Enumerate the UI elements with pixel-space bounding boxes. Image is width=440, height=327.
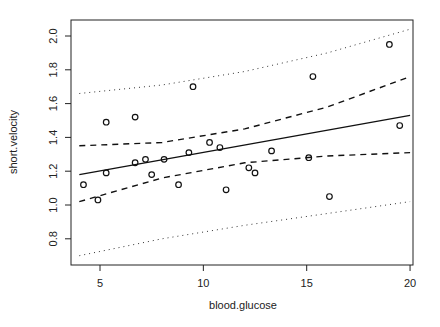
data-point — [95, 197, 101, 203]
y-tick-label: 1.2 — [47, 164, 59, 179]
prediction-lower-line — [79, 202, 410, 256]
data-point — [327, 194, 333, 200]
data-point — [252, 170, 258, 176]
plot-frame — [71, 20, 413, 265]
data-point — [143, 157, 149, 163]
scatter-plot: 5101520 0.81.01.21.41.61.82.0 blood.gluc… — [0, 0, 440, 327]
confidence-lower-line — [79, 153, 410, 202]
x-tick-label: 20 — [404, 277, 416, 289]
data-point — [103, 119, 109, 125]
y-axis: 0.81.01.21.41.61.82.0 — [47, 28, 71, 246]
data-points — [81, 42, 403, 203]
y-tick-label: 2.0 — [47, 28, 59, 43]
y-tick-label: 1.8 — [47, 62, 59, 77]
x-tick-label: 15 — [301, 277, 313, 289]
confidence-upper-line — [79, 77, 410, 146]
data-point — [190, 84, 196, 90]
prediction-upper-line — [79, 29, 410, 93]
data-point — [207, 140, 213, 146]
x-axis: 5101520 — [97, 265, 416, 289]
data-point — [81, 182, 87, 188]
y-tick-label: 1.0 — [47, 197, 59, 212]
y-axis-label: short.velocity — [7, 109, 19, 174]
data-point — [269, 148, 275, 154]
y-tick-label: 1.6 — [47, 96, 59, 111]
x-axis-label: blood.glucose — [209, 299, 277, 311]
data-point — [223, 187, 229, 193]
data-point — [397, 123, 403, 129]
fit-line — [79, 115, 410, 174]
x-tick-label: 10 — [197, 277, 209, 289]
data-point — [176, 182, 182, 188]
y-tick-label: 0.8 — [47, 231, 59, 246]
data-point — [132, 114, 138, 120]
regression-lines — [79, 29, 410, 256]
data-point — [387, 42, 393, 48]
data-point — [103, 170, 109, 176]
data-point — [246, 165, 252, 171]
x-tick-label: 5 — [97, 277, 103, 289]
data-point — [310, 74, 316, 80]
y-tick-label: 1.4 — [47, 130, 59, 145]
data-point — [149, 172, 155, 178]
